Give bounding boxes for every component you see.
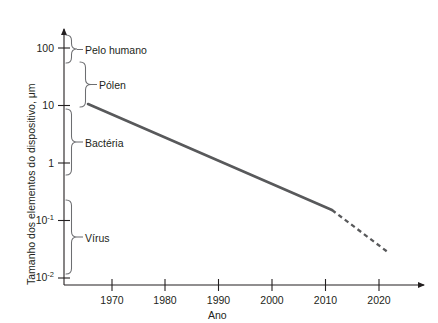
- y-tick-mantissa-0.1: 10: [36, 214, 48, 226]
- annotation-label-virus: Vírus: [85, 233, 110, 244]
- brace-virus: [66, 200, 77, 274]
- brace-polen: [80, 62, 91, 107]
- plot-canvas: [0, 0, 438, 323]
- y-tick-label-100: 100: [14, 43, 54, 54]
- x-tick-label-1980: 1980: [140, 295, 190, 306]
- series-projected-line: [332, 210, 389, 253]
- x-tick-label-2010: 2010: [301, 295, 351, 306]
- x-tick-label-1970: 1970: [87, 295, 137, 306]
- y-tick-mantissa-0.01: 10: [36, 271, 48, 283]
- series-observed-line: [88, 104, 332, 210]
- x-axis-title: Ano: [208, 310, 227, 321]
- annotation-label-polen: Pólen: [99, 80, 126, 91]
- y-tick-exponent-0.1: -1: [47, 213, 54, 222]
- y-axis-title: Tamanho dos elementos do dispositivo, μm: [26, 83, 37, 285]
- device-size-trend-figure: 100 10 1 10-1 10-2 1970 1980 1990 2000 2…: [0, 0, 438, 323]
- brace-bacteria: [66, 109, 77, 175]
- brace-pelo-humano: [66, 35, 77, 63]
- x-tick-label-2020: 2020: [354, 295, 404, 306]
- annotation-label-bacteria: Bactéria: [85, 138, 124, 149]
- x-tick-label-1990: 1990: [194, 295, 244, 306]
- x-tick-label-2000: 2000: [247, 295, 297, 306]
- annotation-label-pelo-humano: Pelo humano: [85, 45, 147, 56]
- y-tick-exponent-0.01: -2: [47, 270, 54, 279]
